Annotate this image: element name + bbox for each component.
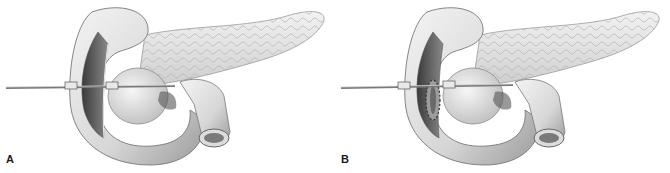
panel-label-a: A (6, 153, 14, 165)
pancreas-duodenum-illustration-a (0, 0, 335, 173)
panel-b: B (335, 0, 670, 173)
pancreas-duodenum-illustration-b (335, 0, 670, 173)
panel-a: A (0, 0, 335, 173)
panel-label-b: B (341, 153, 349, 165)
